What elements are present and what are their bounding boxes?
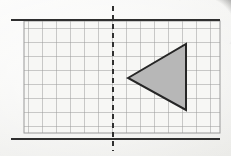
worksheet-page	[0, 0, 231, 156]
grid-area	[24, 21, 220, 133]
reflection-grid-figure	[0, 0, 231, 156]
square-grid	[24, 21, 220, 133]
